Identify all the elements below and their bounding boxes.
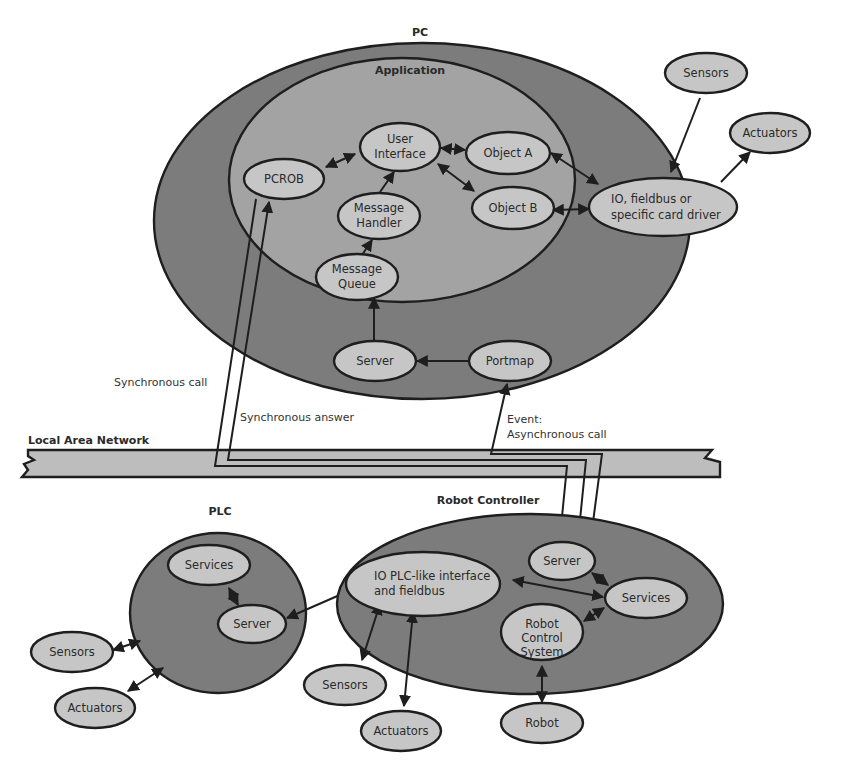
node-message-handler: Message Handler — [338, 193, 420, 239]
rc-sensors-label: Sensors — [322, 678, 367, 692]
plc-server-label: Server — [233, 617, 271, 631]
node-io-plc-interface: IO PLC-like interface and fieldbus — [346, 552, 500, 616]
node-io-driver: IO, fieldbus or specific card driver — [589, 178, 737, 236]
lan-group: Local Area Network — [22, 434, 720, 477]
object-a-label: Object A — [484, 146, 533, 160]
node-rc-sensors: Sensors — [304, 665, 386, 705]
node-object-a: Object A — [466, 132, 550, 174]
message-handler-label-1: Message — [354, 201, 404, 215]
message-queue-label-1: Message — [332, 262, 382, 276]
node-robot: Robot — [501, 703, 583, 743]
node-pc-actuators: Actuators — [730, 113, 810, 153]
user-interface-label-2: Interface — [374, 147, 426, 161]
pc-sensors-label: Sensors — [683, 66, 728, 80]
node-portmap: Portmap — [469, 341, 551, 381]
pc-group: PC Application PCROB User Interface — [154, 26, 810, 399]
edge-sensors-iodriver — [671, 98, 700, 172]
node-rc-services: Services — [605, 578, 687, 618]
node-rc-server: Server — [529, 542, 595, 580]
io-plc-label-2: and fieldbus — [374, 584, 445, 598]
object-b-label: Object B — [489, 201, 538, 215]
edge-plc-sensors — [113, 641, 140, 650]
pc-actuators-label: Actuators — [742, 126, 797, 140]
message-handler-label-2: Handler — [356, 216, 402, 230]
node-user-interface: User Interface — [360, 123, 440, 171]
node-plc-sensors: Sensors — [31, 632, 113, 672]
node-message-queue: Message Queue — [316, 254, 398, 300]
edge-objectb-iodriver — [553, 209, 589, 210]
rcs-label-3: System — [521, 645, 564, 659]
rc-server-label: Server — [543, 554, 581, 568]
node-plc-services: Services — [168, 545, 250, 585]
async-event-label-1: Event: — [507, 413, 542, 426]
io-plc-label-1: IO PLC-like interface — [374, 569, 490, 583]
rcs-label-2: Control — [521, 631, 563, 645]
edge-iodriver-actuators — [721, 152, 750, 182]
rc-services-label: Services — [622, 591, 671, 605]
plc-actuators-label: Actuators — [67, 701, 122, 715]
plc-sensors-label: Sensors — [49, 645, 94, 659]
async-event-label-2: Asynchronous call — [507, 428, 607, 441]
plc-label: PLC — [208, 505, 231, 518]
robot-label: Robot — [525, 716, 559, 730]
node-object-b: Object B — [472, 187, 554, 229]
lan-bar — [22, 450, 720, 477]
rc-actuators-label: Actuators — [373, 724, 428, 738]
node-plc-actuators: Actuators — [55, 688, 135, 728]
message-queue-label-2: Queue — [338, 277, 376, 291]
sync-answer-label: Synchronous answer — [240, 411, 355, 424]
application-label: Application — [375, 64, 445, 77]
node-robot-control-system: Robot Control System — [501, 604, 583, 660]
rcs-label-1: Robot — [525, 617, 559, 631]
portmap-label: Portmap — [486, 354, 534, 368]
sync-call-label: Synchronous call — [114, 376, 207, 389]
pc-label: PC — [412, 26, 428, 39]
robot-controller-label: Robot Controller — [437, 494, 540, 507]
node-pc-server: Server — [334, 341, 416, 381]
node-rc-actuators: Actuators — [361, 711, 441, 751]
robot-controller-group: Robot Controller IO PLC-like interface a… — [304, 494, 723, 751]
node-plc-server: Server — [218, 605, 286, 643]
plc-services-label: Services — [185, 558, 234, 572]
pcrob-label: PCROB — [264, 172, 304, 186]
io-driver-label-1: IO, fieldbus or — [611, 192, 692, 206]
lan-label: Local Area Network — [28, 434, 150, 447]
io-driver-label-2: specific card driver — [611, 208, 721, 222]
node-pc-sensors: Sensors — [665, 53, 747, 93]
architecture-diagram: PC Application PCROB User Interface — [0, 0, 849, 765]
node-pcrob: PCROB — [244, 159, 324, 199]
user-interface-label-1: User — [387, 132, 413, 146]
edge-plc-actuators — [128, 668, 163, 691]
pc-server-label: Server — [356, 354, 394, 368]
plc-group: PLC Services Server Sensors Actuators — [31, 505, 342, 728]
